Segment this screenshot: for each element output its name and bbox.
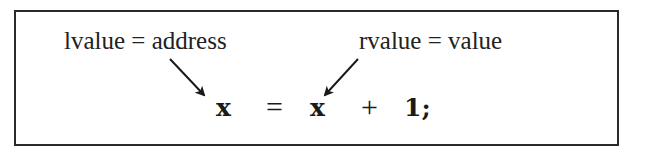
assign-operator: = [266,92,283,122]
arrows-layer [0,0,648,148]
lhs-x: x [216,95,231,120]
rvalue-arrow [325,59,358,95]
plus-operator: + [361,92,378,122]
literal-one: 1; [404,95,431,120]
lvalue-arrow [170,59,204,95]
rhs-x: x [310,95,325,120]
